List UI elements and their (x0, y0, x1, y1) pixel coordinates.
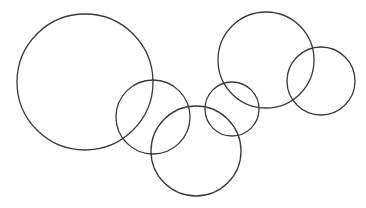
background (0, 0, 366, 208)
circles-diagram (0, 0, 366, 208)
